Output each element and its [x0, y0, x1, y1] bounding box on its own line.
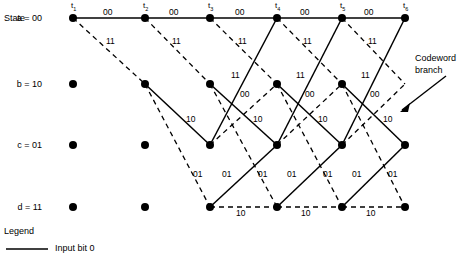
branch-output-label: 11	[238, 37, 247, 46]
branch-output-label: 10	[383, 115, 392, 124]
time-tick-sub-3: 3	[210, 6, 213, 12]
trellis-branch-input-0	[145, 84, 210, 145]
time-tick-sub-2: 2	[145, 6, 148, 12]
trellis-canvas	[0, 0, 466, 258]
time-tick-1: t1	[71, 2, 76, 12]
trellis-node-c	[206, 141, 214, 149]
trellis-node-b	[338, 80, 346, 88]
state-label-b: b = 10	[17, 80, 42, 89]
state-label-d: d = 11	[17, 203, 42, 212]
time-tick-2: t2	[143, 2, 148, 12]
branch-output-label: 10	[186, 115, 195, 124]
trellis-branch-input-1	[342, 84, 405, 207]
branch-output-label: 10	[236, 209, 245, 218]
branch-output-label: 01	[193, 170, 202, 179]
branch-output-label: 11	[296, 71, 305, 80]
legend-title: Legend	[4, 227, 34, 236]
branch-output-label: 01	[323, 170, 332, 179]
trellis-branch-input-1	[210, 84, 277, 207]
branch-output-label: 10	[253, 115, 262, 124]
branch-output-label: 01	[352, 170, 361, 179]
trellis-node-c	[69, 141, 77, 149]
branch-output-label: 11	[106, 37, 115, 46]
trellis-node-a	[338, 14, 346, 22]
branch-output-label: 00	[300, 8, 309, 17]
trellis-node-b	[273, 80, 281, 88]
branch-output-label: 01	[388, 170, 397, 179]
trellis-node-a	[141, 14, 149, 22]
state-label-a: a = 00	[17, 14, 42, 23]
trellis-node-a	[206, 14, 214, 22]
time-tick-5: t5	[340, 2, 345, 12]
time-tick-sub-6: 6	[405, 6, 408, 12]
time-tick-3: t3	[208, 2, 213, 12]
branch-output-label: 01	[287, 170, 296, 179]
trellis-node-d	[206, 203, 214, 211]
branch-output-label: 11	[231, 71, 240, 80]
trellis-node-b	[69, 80, 77, 88]
branch-output-label: 11	[172, 37, 181, 46]
trellis-diagram-figure: State a = 00b = 10c = 01d = 11 t1t2t3t4t…	[0, 0, 466, 258]
branch-output-label: 01	[222, 170, 231, 179]
time-tick-4: t4	[275, 2, 280, 12]
branch-output-label: 10	[301, 209, 310, 218]
branch-output-label: 01	[258, 170, 267, 179]
branch-output-label: 10	[318, 115, 327, 124]
trellis-node-d	[141, 203, 149, 211]
trellis-node-b	[206, 80, 214, 88]
branch-output-label: 00	[169, 8, 178, 17]
legend-entry-label: Input bit 0	[55, 244, 95, 253]
trellis-node-c	[401, 141, 409, 149]
trellis-node-d	[273, 203, 281, 211]
branch-output-label: 11	[368, 37, 377, 46]
branch-output-label: 00	[305, 90, 314, 99]
trellis-branch-input-1	[73, 18, 145, 84]
time-tick-sub-4: 4	[277, 6, 280, 12]
codeword-branch-annotation-line1: Codeword	[415, 53, 456, 64]
time-tick-sub-1: 1	[73, 6, 76, 12]
branch-output-label: 00	[235, 8, 244, 17]
trellis-node-d	[338, 203, 346, 211]
trellis-node-a	[273, 14, 281, 22]
branch-output-label: 00	[103, 8, 112, 17]
time-tick-6: t6	[403, 2, 408, 12]
trellis-branch-input-1	[342, 18, 405, 84]
trellis-node-b	[141, 80, 149, 88]
trellis-node-c	[338, 141, 346, 149]
trellis-node-d	[69, 203, 77, 211]
trellis-branch-input-1	[145, 84, 210, 207]
trellis-node-c	[273, 141, 281, 149]
trellis-branch-input-1	[277, 84, 342, 207]
branch-output-label: 11	[303, 37, 312, 46]
time-tick-sub-5: 5	[342, 6, 345, 12]
trellis-node-c	[141, 141, 149, 149]
trellis-branch-input-1	[145, 18, 210, 84]
branch-output-label: 00	[370, 90, 379, 99]
branch-output-label: 00	[364, 8, 373, 17]
annotation-arrow-layer	[400, 76, 446, 112]
trellis-node-a	[401, 14, 409, 22]
state-label-c: c = 01	[17, 141, 42, 150]
trellis-branch-input-1	[210, 18, 277, 84]
branch-output-label: 11	[361, 71, 370, 80]
codeword-branch-annotation-line2: branch	[415, 65, 443, 76]
branch-output-label: 00	[240, 90, 249, 99]
trellis-branch-input-1	[277, 18, 342, 84]
branch-output-label: 10	[366, 209, 375, 218]
trellis-node-a	[69, 14, 77, 22]
trellis-node-d	[401, 203, 409, 211]
